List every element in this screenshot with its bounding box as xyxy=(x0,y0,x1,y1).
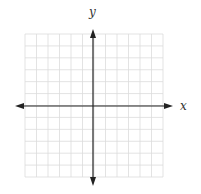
arrow-left-icon xyxy=(15,103,24,109)
arrow-right-icon xyxy=(164,103,173,109)
y-axis-label: y xyxy=(88,5,96,19)
arrow-up-icon xyxy=(90,29,96,38)
arrow-down-icon xyxy=(90,177,96,186)
x-axis-label: x xyxy=(180,99,187,113)
coordinate-plane: x y xyxy=(0,0,201,194)
